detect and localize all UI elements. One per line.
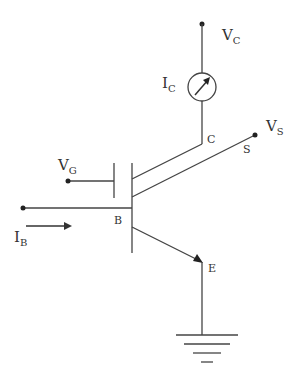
- ic-label: IC: [162, 74, 176, 94]
- ground-icon: [176, 335, 238, 362]
- terminal-s-label: S: [243, 143, 251, 156]
- vg-terminal-dot: [66, 179, 71, 184]
- collector-diagonal: [132, 144, 202, 179]
- vc-label: VC: [221, 26, 241, 46]
- vg-label: VG: [57, 156, 77, 176]
- source-diagonal: [132, 135, 255, 197]
- ib-label: IB: [14, 228, 27, 248]
- circuit-diagram: VC IC C VS S VG B IB E: [0, 0, 296, 386]
- gate: VG: [57, 156, 114, 198]
- vs-label: VS: [265, 117, 284, 137]
- ammeter: IC: [162, 73, 216, 101]
- collector-supply: VC: [200, 22, 241, 74]
- terminal-b-label: B: [114, 214, 122, 227]
- base-terminal-dot: [21, 206, 26, 211]
- emitter: E: [132, 227, 216, 335]
- emitter-arrow-icon: [193, 254, 203, 263]
- base-input: B IB: [14, 206, 132, 249]
- terminal-c-label: C: [207, 133, 215, 146]
- terminal-e-label: E: [208, 262, 216, 275]
- vs-terminal-dot: [253, 133, 258, 138]
